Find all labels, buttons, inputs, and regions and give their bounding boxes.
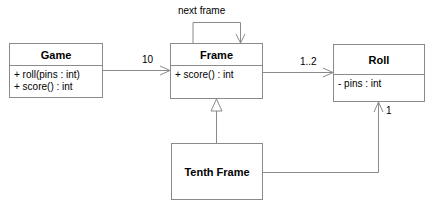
class-frame[interactable]: Frame + score() : int xyxy=(170,43,263,99)
member: - pins : int xyxy=(338,78,420,90)
class-members: - pins : int xyxy=(334,75,424,93)
member: + roll(pins : int) xyxy=(14,69,98,81)
class-members: + roll(pins : int) + score() : int xyxy=(10,66,102,96)
class-game[interactable]: Game + roll(pins : int) + score() : int xyxy=(9,43,103,98)
class-tenth-frame[interactable]: Tenth Frame xyxy=(171,143,263,200)
class-roll[interactable]: Roll - pins : int xyxy=(333,44,425,102)
frame-roll-multiplicity: 1..2 xyxy=(300,56,317,67)
member: + score() : int xyxy=(14,81,98,93)
class-name: Tenth Frame xyxy=(172,144,262,199)
self-association-label: next frame xyxy=(178,5,225,16)
class-name: Frame xyxy=(171,44,262,66)
class-members: + score() : int xyxy=(171,66,262,84)
member: + score() : int xyxy=(175,69,258,81)
game-frame-multiplicity: 10 xyxy=(142,54,153,65)
tenth-roll-multiplicity: 1 xyxy=(386,105,392,116)
class-name: Roll xyxy=(334,45,424,75)
class-name: Game xyxy=(10,44,102,66)
